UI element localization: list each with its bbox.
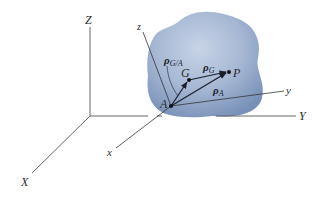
Y-axis-label: Y — [299, 109, 307, 123]
point-P-dot — [227, 70, 231, 74]
rigid-body-diagram: Z Y X z y x A G P ρG/A ρG ρA — [0, 0, 323, 198]
X-axis-line — [32, 116, 90, 173]
z-axis-label: z — [136, 21, 141, 32]
point-P-label: P — [232, 66, 241, 80]
Z-axis-label: Z — [85, 13, 92, 27]
point-A-label: A — [159, 97, 168, 111]
point-G-label: G — [181, 66, 190, 80]
x-axis-line — [116, 106, 171, 148]
y-axis-label: y — [285, 84, 291, 96]
point-A-dot — [169, 104, 173, 108]
x-axis-label: x — [106, 146, 112, 158]
X-axis-label: X — [20, 175, 29, 189]
